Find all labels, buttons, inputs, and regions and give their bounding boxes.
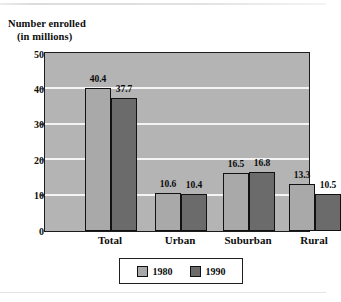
axis-title-line-2: (in millions): [8, 31, 86, 44]
bar-value-label: 10.5: [320, 180, 337, 190]
legend-swatch-1990-icon: [190, 266, 201, 277]
plot-inner: 40.437.710.610.416.516.813.310.5: [45, 53, 309, 231]
bar-rural-1990: [315, 194, 341, 231]
bar-value-label: 16.5: [228, 159, 245, 169]
legend-swatch-1980-icon: [137, 266, 148, 277]
scan-artifact-bottom: [0, 292, 326, 293]
axis-title-line-1: Number enrolled: [8, 18, 86, 29]
y-tick-label: 50: [10, 48, 44, 59]
bar-urban-1990: [181, 194, 207, 231]
y-tick-label: 20: [10, 154, 44, 165]
bar-suburban-1980: [223, 173, 249, 231]
chart-legend: 1980 1990: [119, 258, 243, 284]
y-tick-label: 30: [10, 119, 44, 130]
x-tick-label-total: Total: [98, 234, 122, 246]
scan-artifact-top: [0, 3, 326, 5]
bar-total-1980: [85, 88, 111, 231]
legend-label-1980: 1980: [153, 266, 173, 277]
bar-value-label: 37.7: [116, 84, 133, 94]
legend-item-1980: 1980: [137, 266, 173, 277]
chart-axis-title: Number enrolled (in millions): [8, 18, 86, 43]
x-axis: TotalUrbanSuburbanRural: [44, 234, 310, 254]
bar-value-label: 10.4: [186, 180, 203, 190]
y-tick-label: 40: [10, 83, 44, 94]
y-tick-label: 10: [10, 190, 44, 201]
bar-suburban-1990: [249, 172, 275, 231]
bar-value-label: 10.6: [160, 179, 177, 189]
x-tick-label-urban: Urban: [165, 234, 196, 246]
bar-urban-1980: [155, 193, 181, 231]
plot-area: 40.437.710.610.416.516.813.310.5: [44, 52, 310, 232]
bar-value-label: 13.3: [294, 170, 311, 180]
bar-rural-1980: [289, 184, 315, 231]
legend-item-1990: 1990: [190, 266, 226, 277]
y-axis: 01020304050: [0, 52, 44, 232]
x-tick-label-rural: Rural: [300, 234, 328, 246]
legend-label-1990: 1990: [206, 266, 226, 277]
bar-value-label: 40.4: [90, 74, 107, 84]
bar-value-label: 16.8: [254, 158, 271, 168]
bar-total-1990: [111, 98, 137, 231]
y-tick-label: 0: [10, 225, 44, 236]
x-tick-label-suburban: Suburban: [224, 234, 271, 246]
